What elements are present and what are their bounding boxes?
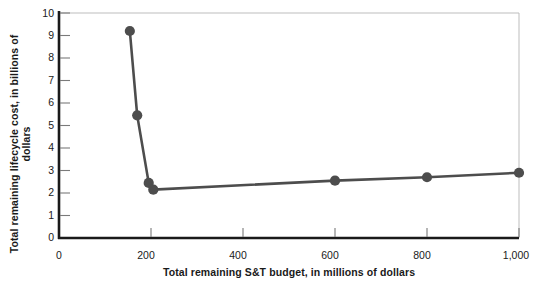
y-tick-label-3: 3: [32, 165, 54, 175]
data-point: [514, 168, 524, 178]
series-markers: [125, 26, 524, 195]
data-point: [330, 176, 340, 186]
plot-area: [0, 0, 534, 288]
data-point: [148, 185, 158, 195]
x-tick-label-200: 200: [131, 250, 161, 260]
y-axis-label: Total remaining lifecycle cost, in billi…: [8, 19, 33, 269]
data-point: [422, 172, 432, 182]
x-tick-label-400: 400: [223, 250, 253, 260]
x-tick-label-600: 600: [315, 250, 345, 260]
data-point: [132, 110, 142, 120]
y-tick-label-7: 7: [32, 75, 54, 85]
y-tick-label-6: 6: [32, 97, 54, 107]
series-line: [130, 31, 519, 190]
y-tick-label-9: 9: [32, 30, 54, 40]
x-tick-marks: [151, 228, 519, 237]
y-tick-label-5: 5: [32, 120, 54, 130]
x-tick-label-0: 0: [44, 250, 74, 260]
x-axis-label: Total remaining S&T budget, in millions …: [59, 266, 519, 278]
y-tick-label-10: 10: [32, 8, 54, 18]
x-tick-label-800: 800: [407, 250, 437, 260]
chart-figure: Total remaining lifecycle cost, in billi…: [0, 0, 534, 288]
y-tick-label-2: 2: [32, 187, 54, 197]
y-tick-label-0: 0: [32, 232, 54, 242]
y-tick-label-4: 4: [32, 142, 54, 152]
y-tick-label-8: 8: [32, 52, 54, 62]
data-point: [125, 26, 135, 36]
x-tick-label-1000: 1,000: [498, 250, 534, 260]
y-tick-label-1: 1: [32, 210, 54, 220]
y-tick-marks: [60, 13, 70, 216]
